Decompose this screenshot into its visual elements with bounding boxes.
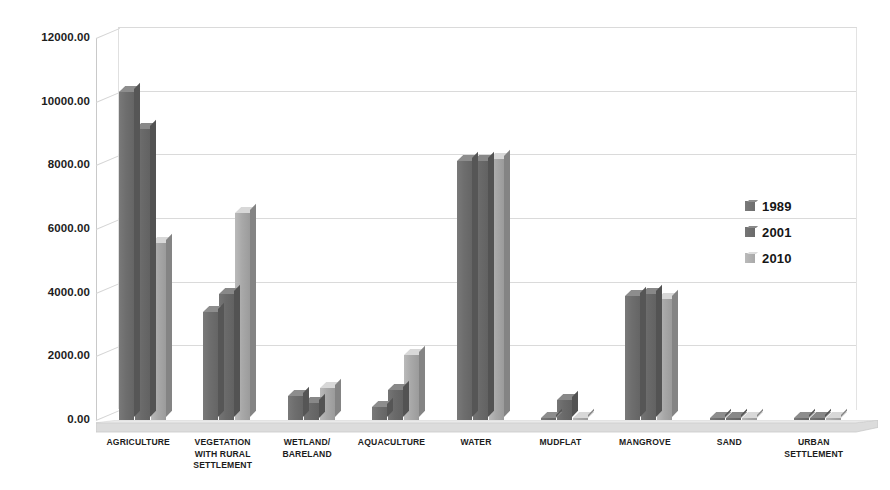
gridline xyxy=(118,27,856,28)
legend-label: 2010 xyxy=(762,251,792,266)
bar xyxy=(794,418,809,420)
legend-label: 1989 xyxy=(762,199,792,214)
bar-front-face xyxy=(203,312,218,420)
bar-side-face xyxy=(166,234,172,417)
bar-side-face xyxy=(640,287,646,417)
y-axis-tick-label: 4000.00 xyxy=(4,286,90,298)
x-axis-category-label: AGRICULTURE xyxy=(90,437,186,449)
legend-swatch xyxy=(745,227,755,237)
bar-front-face xyxy=(573,418,588,420)
bar-side-face xyxy=(218,303,224,417)
plot-area xyxy=(96,38,856,420)
bar-side-face xyxy=(335,379,341,417)
x-axis-category-label: AQUACULTURE xyxy=(343,437,439,449)
y-tick-connector xyxy=(96,410,120,421)
bar-side-face xyxy=(472,151,478,417)
bar-side-face xyxy=(150,120,156,417)
gridline xyxy=(118,91,856,92)
x-axis-category-label: URBANSETTLEMENT xyxy=(766,437,862,460)
bar-front-face xyxy=(794,418,809,420)
bar xyxy=(372,407,387,420)
bar xyxy=(726,418,741,420)
legend-item: 2010 xyxy=(745,245,792,271)
bar-side-face xyxy=(134,83,140,417)
bar-front-face xyxy=(710,418,725,420)
bar-front-face xyxy=(810,418,825,420)
y-axis-tick-label: 12000.00 xyxy=(4,31,90,43)
legend-label: 2001 xyxy=(762,225,792,240)
bar xyxy=(742,418,757,420)
bar-side-face xyxy=(403,381,409,417)
bar xyxy=(541,418,556,420)
legend-item: 1989 xyxy=(745,193,792,219)
bar xyxy=(810,418,825,420)
bar-side-face xyxy=(419,346,425,417)
bar-side-face xyxy=(504,150,510,417)
legend-item: 2001 xyxy=(745,219,792,245)
x-axis-category-label: MUDFLAT xyxy=(512,437,608,449)
bar xyxy=(710,418,725,420)
bar-side-face xyxy=(488,152,494,417)
bar xyxy=(288,396,303,420)
bar-front-face xyxy=(119,92,134,420)
y-tick-connector xyxy=(96,28,120,39)
bar-side-face xyxy=(656,285,662,417)
bar xyxy=(119,92,134,420)
x-axis-category-label: SAND xyxy=(681,437,777,449)
bar-front-face xyxy=(372,407,387,420)
legend-swatch xyxy=(745,253,755,263)
bar xyxy=(457,161,472,420)
bar-front-face xyxy=(726,418,741,420)
bar xyxy=(826,418,841,420)
bar-side-face xyxy=(234,285,240,417)
y-axis-tick-label: 0.00 xyxy=(4,413,90,425)
bar xyxy=(203,312,218,420)
bar-front-face xyxy=(541,418,556,420)
bar-side-face xyxy=(672,290,678,417)
x-axis-category-label: WATER xyxy=(428,437,524,449)
y-tick-connector xyxy=(96,155,120,166)
bar xyxy=(625,296,640,420)
x-axis-category-label: WETLAND/BARELAND xyxy=(259,437,355,460)
legend-swatch xyxy=(745,201,755,211)
y-tick-connector xyxy=(96,92,120,103)
y-tick-connector xyxy=(96,283,120,294)
bar-front-face xyxy=(288,396,303,420)
x-axis-category-label: VEGETATIONWITH RURALSETTLEMENT xyxy=(174,437,270,472)
y-tick-connector xyxy=(96,219,120,230)
bar-chart: 0.002000.004000.006000.008000.0010000.00… xyxy=(0,0,890,490)
chart-legend: 198920012010 xyxy=(745,193,792,271)
bar-front-face xyxy=(742,418,757,420)
bar xyxy=(573,418,588,420)
bar-front-face xyxy=(826,418,841,420)
y-axis-tick-label: 8000.00 xyxy=(4,158,90,170)
bar-side-face xyxy=(250,204,256,417)
y-axis-tick-label: 2000.00 xyxy=(4,349,90,361)
y-axis-tick-label: 6000.00 xyxy=(4,222,90,234)
x-axis-category-label: MANGROVE xyxy=(597,437,693,449)
bar-front-face xyxy=(625,296,640,420)
bar-front-face xyxy=(457,161,472,420)
chart-floor xyxy=(96,420,878,433)
y-tick-connector xyxy=(96,346,120,357)
bar-side-face xyxy=(841,409,847,417)
y-axis-tick-label: 10000.00 xyxy=(4,95,90,107)
